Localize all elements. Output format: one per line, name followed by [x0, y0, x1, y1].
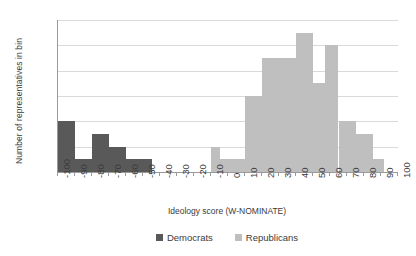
x-axis-tickmark	[227, 172, 228, 176]
x-axis-tickmark	[91, 172, 92, 176]
bar-rep-50	[313, 83, 325, 172]
y-axis-title: Number of representatives in bin	[14, 16, 24, 186]
x-axis-title: Ideology score (W-NOMINATE)	[57, 206, 397, 216]
x-axis-tick: 0	[231, 173, 242, 178]
x-axis-tickmark	[244, 172, 245, 176]
x-axis-tickmark	[125, 172, 126, 176]
x-axis-tickmark	[363, 172, 364, 176]
x-axis-tick: -50	[146, 164, 157, 178]
x-axis-tickmark	[159, 172, 160, 176]
x-axis-tickmark	[397, 172, 398, 176]
bar-rep-10	[245, 96, 262, 172]
x-axis-tickmark	[57, 172, 58, 176]
x-axis-tick: 80	[367, 167, 378, 178]
x-axis-tick: 50	[316, 167, 327, 178]
x-axis-tick: 20	[265, 167, 276, 178]
x-axis-tick: 100	[401, 162, 412, 178]
x-axis-tick: 60	[333, 167, 344, 178]
x-axis-tick: -30	[180, 164, 191, 178]
legend-swatch-icon	[235, 234, 242, 241]
legend-item-democrats: Democrats	[156, 232, 213, 243]
x-axis-tickmark	[278, 172, 279, 176]
chart-legend: DemocratsRepublicans	[57, 232, 397, 243]
bar-rep-30	[279, 58, 296, 172]
x-axis-tickmark	[346, 172, 347, 176]
x-axis-tick: -90	[78, 164, 89, 178]
bar-rep-40	[296, 33, 313, 172]
x-axis-tick: -10	[214, 164, 225, 178]
x-axis-tickmark	[295, 172, 296, 176]
x-axis-tick: 90	[384, 167, 395, 178]
legend-label: Republicans	[246, 232, 298, 243]
legend-item-republicans: Republicans	[235, 232, 298, 243]
x-axis-tickmark	[142, 172, 143, 176]
bar-series-container	[58, 20, 398, 172]
x-axis-tickmark	[176, 172, 177, 176]
x-axis-tickmark	[261, 172, 262, 176]
x-axis-tickmark	[380, 172, 381, 176]
bar-rep-57	[325, 45, 339, 172]
x-axis-tick-labels: -100-90-80-70-60-50-40-30-20-10010203040…	[57, 172, 397, 206]
legend-label: Democrats	[167, 232, 213, 243]
x-axis-tick: -80	[95, 164, 106, 178]
x-axis-tickmark	[329, 172, 330, 176]
bar-rep-20	[262, 58, 279, 172]
x-axis-tick: -20	[197, 164, 208, 178]
x-axis-tickmark	[312, 172, 313, 176]
x-axis-tick: -60	[129, 164, 140, 178]
x-axis-tick: -40	[163, 164, 174, 178]
bar-rep-65	[339, 121, 356, 172]
histogram-chart: Number of representatives in bin 0246810…	[0, 0, 416, 256]
x-axis-tickmark	[193, 172, 194, 176]
x-axis-tick: -70	[112, 164, 123, 178]
x-axis-tickmark	[108, 172, 109, 176]
legend-swatch-icon	[156, 234, 163, 241]
x-axis-tickmark	[74, 172, 75, 176]
x-axis-tick: 30	[282, 167, 293, 178]
plot-area	[57, 20, 398, 173]
bar-rep-75	[356, 134, 373, 172]
x-axis-tickmark	[210, 172, 211, 176]
x-axis-tick: 70	[350, 167, 361, 178]
x-axis-tick: 40	[299, 167, 310, 178]
x-axis-tick: -100	[61, 159, 72, 178]
x-axis-tick: 10	[248, 167, 259, 178]
